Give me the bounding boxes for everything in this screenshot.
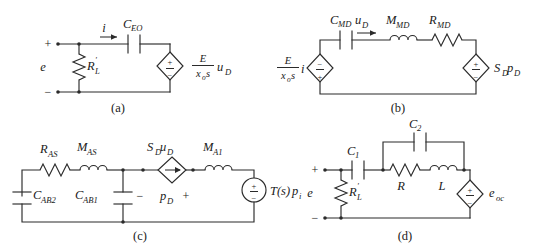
svg-text:EO: EO [130, 23, 142, 33]
svg-text:oc: oc [496, 193, 504, 203]
label-R-d: R [396, 179, 405, 193]
panel-a: + − + − e i C EO R L ′ E x o s u D (a) [40, 17, 232, 115]
svg-text:x: x [195, 68, 201, 79]
source-diamond-d: + − [457, 170, 483, 218]
svg-text:′: ′ [357, 181, 359, 191]
svg-text:2: 2 [417, 123, 422, 133]
svg-text:AS: AS [86, 147, 97, 157]
source-b-left-minus-sign: − [318, 59, 323, 69]
svg-text:p: p [506, 61, 513, 75]
label-RAS-c: R AS [39, 142, 58, 159]
circuit-figure: + − + − e i C EO R L ′ E x o s u D (a) [0, 0, 555, 251]
source-c-plus-sign: + [252, 181, 257, 191]
capacitor-C1-d [352, 161, 364, 179]
svg-text:p: p [159, 189, 166, 203]
svg-text:e: e [489, 186, 495, 200]
svg-text:MD: MD [337, 19, 352, 29]
caption-b: (b) [391, 101, 406, 115]
voltage-arrow-uD-b [357, 30, 376, 36]
svg-text:i: i [299, 191, 302, 201]
label-CAB1-c: C AB1 [75, 188, 98, 205]
svg-text:R: R [86, 59, 95, 73]
panel-b: − + + − [277, 13, 521, 115]
source-diamond-b-right: + − [463, 54, 489, 82]
svg-text:S: S [147, 140, 154, 154]
svg-text:AB1: AB1 [82, 195, 98, 205]
source-circle-c: + − [242, 178, 266, 203]
pD-plus: + [183, 189, 190, 203]
label-C2-d: C 2 [409, 117, 422, 133]
capacitor-CAB1-c [114, 170, 132, 222]
label-eoc-d: e oc [489, 186, 504, 203]
svg-text:R: R [428, 13, 437, 27]
terminal-dot-minus-d [323, 216, 327, 220]
resistor-R-d [390, 164, 420, 176]
label-MMD-b: M MD [385, 13, 410, 30]
caption-d: (d) [398, 229, 413, 243]
svg-text:u: u [160, 140, 166, 154]
caption-c: (c) [133, 229, 147, 243]
panel-c: + − R AS M AS C AB2 C AB1 S D u D − [13, 140, 302, 243]
label-RL-a: R L ′ [86, 55, 100, 76]
label-CAB2-c: C AB2 [33, 188, 56, 205]
capacitor-CMD-b [340, 31, 352, 49]
pD-minus: − [137, 189, 144, 203]
source-d-plus-sign: + [468, 185, 473, 195]
caption-a: (a) [111, 101, 125, 115]
source-b-left-plus-sign: + [318, 72, 323, 82]
junction-dot-c-src-left [141, 168, 145, 172]
svg-text:s: s [206, 68, 210, 79]
svg-text:A1: A1 [212, 147, 223, 157]
source-a-minus-sign: − [168, 70, 173, 80]
svg-text:′: ′ [95, 55, 97, 65]
resistor-RMD-b [432, 34, 462, 46]
label-L-d: L [438, 179, 446, 193]
source-d-minus-sign: − [468, 198, 473, 208]
svg-text:L: L [94, 66, 100, 76]
inductor-MA1-c [205, 166, 232, 171]
current-arrow-i-a [100, 34, 117, 40]
svg-text:i: i [301, 62, 305, 76]
label-source-expr-b: E x o s i [277, 55, 305, 84]
svg-text:AS: AS [47, 149, 58, 159]
svg-text:T(s): T(s) [270, 184, 290, 198]
svg-text:u: u [355, 13, 361, 27]
inductor-L-d [430, 166, 457, 171]
panel-d: + − + − e R L ′ C 1 C 2 R L e oc (d) [307, 117, 504, 243]
capacitor-CEO-a [128, 35, 140, 53]
terminal-plus-a: + [45, 37, 52, 51]
label-uD-b: u D [355, 13, 369, 30]
terminal-dot-minus-a [56, 90, 60, 94]
terminal-plus-d: + [312, 163, 319, 177]
label-RMD-b: R MD [428, 13, 451, 30]
inductor-MAS-c [80, 166, 107, 171]
svg-text:D: D [166, 147, 174, 157]
svg-text:D: D [224, 67, 232, 77]
svg-text:D: D [513, 68, 521, 78]
circuit-svg: + − + − e i C EO R L ′ E x o s u D (a) [0, 0, 555, 251]
label-source-expr-b-right: S D p D [494, 61, 521, 78]
capacitor-C2-d [383, 133, 464, 170]
svg-text:R: R [39, 142, 48, 156]
svg-text:E: E [199, 53, 207, 64]
resistor-RAS-c [40, 164, 70, 176]
source-b-right-minus-sign: − [474, 72, 479, 82]
label-RL-d: R L ′ [348, 181, 362, 202]
svg-text:x: x [280, 70, 286, 81]
source-b-right-plus-sign: + [474, 59, 479, 69]
label-Ts-pi-c: T(s) p i [270, 184, 302, 201]
junction-dot-c-src-right [191, 168, 195, 172]
label-MAS-c: M AS [76, 140, 97, 157]
inductor-MMD-b [390, 36, 417, 41]
terminal-minus-d: − [312, 211, 319, 225]
svg-text:L: L [356, 192, 362, 202]
svg-text:AB2: AB2 [40, 195, 56, 205]
resistor-RL-d [335, 170, 347, 218]
source-diamond-b-left: − + [307, 54, 333, 82]
svg-text:1: 1 [355, 150, 359, 160]
label-MA1-c: M A1 [202, 140, 223, 157]
source-a-plus-sign: + [168, 57, 173, 67]
svg-text:R: R [348, 185, 357, 199]
source-diamond-c-current [158, 157, 186, 183]
label-CEO-a: C EO [123, 17, 142, 33]
